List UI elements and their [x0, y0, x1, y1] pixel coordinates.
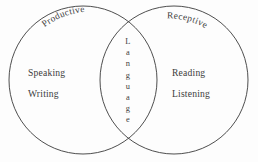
intersection-label: L a n g u a g e	[115, 36, 141, 126]
left-set-items: Speaking Writing	[28, 68, 100, 109]
right-set-label: Receptive	[167, 10, 210, 30]
left-set-label: Productive	[40, 4, 85, 29]
intersection-letter: a	[115, 47, 141, 58]
intersection-letter: L	[115, 36, 141, 47]
left-set-item-speaking: Speaking	[28, 68, 100, 78]
left-set-item-writing: Writing	[28, 89, 100, 99]
intersection-letter: n	[115, 58, 141, 69]
right-set-items: Reading Listening	[172, 68, 250, 109]
right-set-item-listening: Listening	[172, 89, 250, 99]
intersection-letter: a	[115, 92, 141, 103]
intersection-letter: g	[115, 103, 141, 114]
intersection-letter: g	[115, 70, 141, 81]
right-set-item-reading: Reading	[172, 68, 250, 78]
venn-diagram: Productive Receptive Speaking Writing Re…	[0, 0, 258, 162]
intersection-letter: e	[115, 114, 141, 125]
intersection-letter: u	[115, 81, 141, 92]
